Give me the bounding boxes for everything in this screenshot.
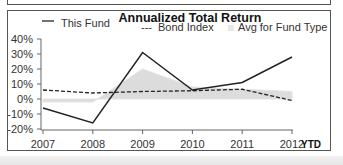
x-tick-label: 2008 bbox=[81, 138, 105, 150]
annualized-return-chart: Annualized Total Return This Fund --- Bo… bbox=[0, 0, 343, 165]
avg-fund-type-area bbox=[43, 69, 292, 102]
avg-fund-type-legend-swatch bbox=[228, 25, 234, 31]
x-tick-label: 2010 bbox=[180, 138, 204, 150]
legend-avg-fund-type: Avg for Fund Type bbox=[238, 21, 327, 33]
y-tick-label: 30% bbox=[11, 48, 33, 60]
y-axis-ticks: 40%30%20%10%0%-10%-20% bbox=[7, 33, 41, 135]
y-tick-label: -20% bbox=[7, 123, 33, 135]
legend-bond-marker: --- bbox=[141, 21, 152, 33]
y-tick-label: 0% bbox=[17, 93, 33, 105]
legend-bond-index: Bond Index bbox=[158, 21, 214, 33]
x-tick-label: 2007 bbox=[31, 138, 55, 150]
plot-area bbox=[43, 53, 292, 124]
x-axis-ticks: 200720082009201020112012 bbox=[31, 130, 304, 150]
y-tick-label: 20% bbox=[11, 63, 33, 75]
ytd-label: YTD bbox=[301, 139, 321, 150]
y-tick-label: -10% bbox=[7, 108, 33, 120]
y-tick-label: 40% bbox=[11, 33, 33, 45]
y-tick-label: 10% bbox=[11, 78, 33, 90]
x-tick-label: 2011 bbox=[230, 138, 254, 150]
x-tick-label: 2009 bbox=[130, 138, 154, 150]
legend-this-fund: This Fund bbox=[61, 17, 110, 29]
